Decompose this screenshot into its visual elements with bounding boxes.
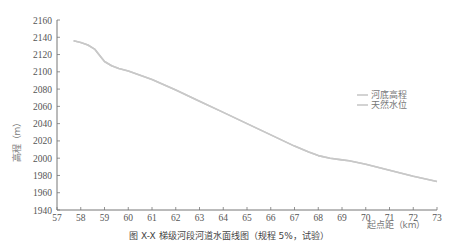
y-axis: 1940196019802000202020402060208021002120… — [33, 16, 60, 216]
series-line-1 — [74, 41, 437, 182]
y-tick-label: 2140 — [33, 33, 52, 43]
legend: 河底高程天然水位 — [357, 89, 407, 110]
x-tick-label: 73 — [432, 213, 442, 223]
x-tick-label: 68 — [314, 213, 324, 223]
x-tick-label: 60 — [124, 213, 134, 223]
x-tick-label: 67 — [290, 213, 300, 223]
y-tick-label: 1940 — [33, 206, 52, 216]
y-tick-label: 2060 — [33, 102, 52, 112]
figure-caption: 图 X-X 梯级河段河道水面线图（规程 5%，试验） — [0, 229, 458, 242]
y-tick-label: 2120 — [33, 50, 52, 60]
x-tick-label: 66 — [266, 213, 276, 223]
y-tick-label: 2020 — [33, 136, 52, 146]
y-tick-label: 2040 — [33, 119, 52, 129]
x-tick-label: 64 — [219, 213, 229, 223]
x-tick-label: 59 — [100, 213, 110, 223]
y-tick-label: 2080 — [33, 85, 52, 95]
legend-label: 天然水位 — [371, 99, 407, 110]
x-tick-label: 65 — [242, 213, 252, 223]
y-tick-label: 2160 — [33, 16, 52, 26]
y-tick-label: 2100 — [33, 67, 52, 77]
plot-series — [74, 41, 437, 182]
series-line-0 — [74, 41, 437, 182]
x-tick-label: 63 — [195, 213, 205, 223]
x-tick-label: 61 — [147, 213, 157, 223]
x-tick-label: 58 — [76, 213, 86, 223]
x-tick-label: 57 — [52, 213, 62, 223]
x-tick-label: 69 — [337, 213, 347, 223]
river-profile-chart: 1940196019802000202020402060208021002120… — [0, 0, 458, 246]
y-tick-label: 1960 — [33, 188, 52, 198]
legend-label: 河底高程 — [371, 89, 407, 100]
y-tick-label: 1980 — [33, 171, 52, 181]
y-axis-title: 高程（m） — [11, 118, 22, 163]
y-tick-label: 2000 — [33, 154, 52, 164]
x-tick-label: 62 — [171, 213, 181, 223]
